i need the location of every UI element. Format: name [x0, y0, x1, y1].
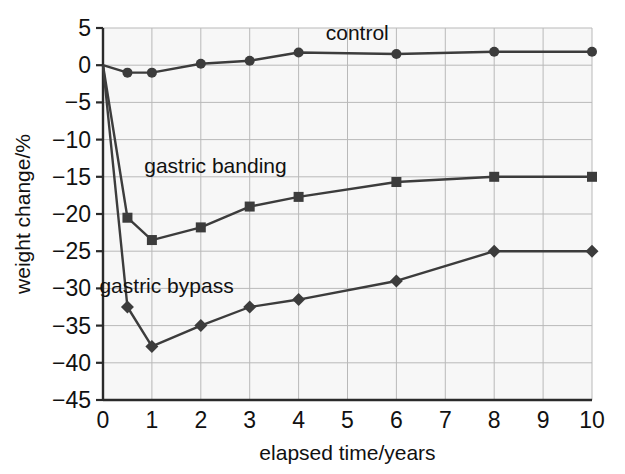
x-tick-label: 6	[390, 407, 403, 433]
data-point-marker-circle	[489, 47, 499, 57]
y-axis-title: weight change/%	[11, 134, 34, 295]
y-tick-label: 0	[78, 52, 91, 78]
data-point-marker-square	[147, 235, 157, 245]
y-tick-label: −25	[52, 238, 91, 264]
x-tick-label: 10	[579, 407, 605, 433]
data-point-marker-square	[196, 222, 206, 232]
x-tick-label: 4	[292, 407, 305, 433]
data-point-marker-circle	[587, 47, 597, 57]
data-point-marker-circle	[147, 68, 157, 78]
x-tick-label: 8	[488, 407, 501, 433]
data-point-marker-circle	[122, 68, 132, 78]
y-tick-label: −5	[65, 89, 91, 115]
x-tick-label: 9	[537, 407, 550, 433]
series-label-gastric-bypass: gastric bypass	[99, 274, 233, 297]
x-tick-label: 3	[243, 407, 256, 433]
data-point-marker-square	[245, 202, 255, 212]
y-tick-label: −45	[52, 387, 91, 413]
data-point-marker-square	[587, 172, 597, 182]
chart-figure: 012345678910 50−5−10−15−20−25−30−35−40−4…	[0, 0, 625, 474]
x-tick-label: 7	[439, 407, 452, 433]
x-tick-label: 2	[194, 407, 207, 433]
y-tick-label: −35	[52, 313, 91, 339]
data-point-marker-circle	[245, 56, 255, 66]
x-axis-title: elapsed time/years	[259, 441, 435, 464]
data-point-marker-square	[294, 192, 304, 202]
data-point-marker-circle	[196, 59, 206, 69]
y-tick-label: −20	[52, 201, 91, 227]
y-tick-label: −30	[52, 275, 91, 301]
data-point-marker-circle	[391, 49, 401, 59]
data-point-marker-square	[122, 213, 132, 223]
data-point-marker-square	[489, 172, 499, 182]
series-label-control: control	[326, 21, 389, 44]
line-chart: 012345678910 50−5−10−15−20−25−30−35−40−4…	[0, 0, 625, 474]
y-tick-label: −10	[52, 127, 91, 153]
series-label-gastric-banding: gastric banding	[144, 154, 286, 177]
x-tick-label: 5	[341, 407, 354, 433]
x-tick-label: 1	[146, 407, 159, 433]
y-tick-label: −40	[52, 350, 91, 376]
x-tick-label: 0	[97, 407, 110, 433]
data-point-marker-square	[391, 177, 401, 187]
y-tick-label: −15	[52, 164, 91, 190]
data-point-marker-circle	[294, 48, 304, 58]
y-tick-label: 5	[78, 15, 91, 41]
